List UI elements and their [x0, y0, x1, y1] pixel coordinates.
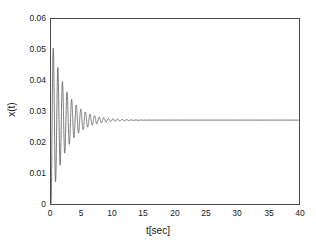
y-tick-label-0: 0 — [2, 200, 46, 209]
y-tick-label-0.01: 0.01 — [2, 169, 46, 178]
plot-area — [50, 18, 300, 205]
y-tick-label-0.02: 0.02 — [2, 138, 46, 147]
data-curve-svg — [51, 19, 299, 204]
x-tick-label-15: 15 — [133, 209, 153, 218]
x-tick-label-20: 20 — [165, 209, 185, 218]
series-line-x-of-t — [51, 48, 299, 204]
x-tick-label-5: 5 — [71, 209, 91, 218]
y-tick-label-0.06: 0.06 — [2, 14, 46, 23]
x-axis-tick-labels: 0 5 10 15 20 25 30 35 40 — [0, 209, 316, 223]
x-tick-label-35: 35 — [259, 209, 279, 218]
chart-figure: 0.06 0.05 0.04 0.03 0.02 0.01 0 x(t) 0 5… — [0, 0, 316, 245]
y-axis-label-text: x(t) — [6, 102, 17, 116]
x-tick-label-10: 10 — [102, 209, 122, 218]
y-tick-label-0.05: 0.05 — [2, 45, 46, 54]
x-tick-label-30: 30 — [227, 209, 247, 218]
x-axis-label: t[sec] — [0, 225, 316, 236]
x-tick-label-40: 40 — [290, 209, 310, 218]
y-tick-label-0.04: 0.04 — [2, 76, 46, 85]
x-axis-label-text: t[sec] — [146, 225, 170, 236]
x-tick-label-0: 0 — [40, 209, 60, 218]
y-axis-label: x(t) — [6, 90, 17, 130]
x-tick-label-25: 25 — [196, 209, 216, 218]
